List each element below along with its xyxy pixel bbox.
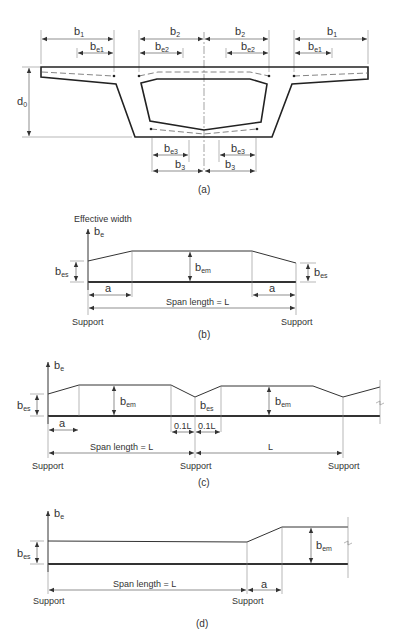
b2-left-label: b2	[170, 25, 180, 38]
be-axis-label: be	[54, 359, 64, 372]
support-1-label: Support	[32, 461, 64, 471]
effective-width-profile	[48, 527, 348, 542]
a-label: a	[59, 417, 66, 429]
b3-left-label: b3	[175, 158, 185, 171]
bes-left-label: bes	[17, 399, 31, 412]
support-left-label: Support	[72, 317, 104, 327]
b1-left-label: b1	[74, 25, 84, 38]
be3-right-label: be3	[231, 142, 245, 155]
bem-label: bem	[195, 261, 211, 274]
be2-left-label: be2	[155, 40, 169, 53]
continuous-span-diagram: be bes bem bes bem a 0.1L 0.1L	[17, 359, 384, 488]
break-mark	[376, 401, 384, 405]
b2-right-label: b2	[235, 25, 245, 38]
caption-c: (c)	[198, 477, 210, 488]
be1-right-label: be1	[308, 40, 322, 53]
be2-right-label: be2	[241, 40, 255, 53]
effective-width-profile	[88, 251, 296, 263]
support-2-label: Support	[180, 461, 212, 471]
be-axis-label: be	[54, 507, 64, 520]
break-mark	[344, 541, 352, 545]
box-girder-cross-section: b1 be1 b2 be2 b2 be2 b1 be1 d0	[17, 25, 368, 195]
bes-mid-label: bes	[200, 399, 214, 412]
effective-width-figure: b1 be1 b2 be2 b2 be2 b1 be1 d0	[0, 0, 401, 642]
bes-left-label: bes	[55, 265, 69, 278]
effective-width-title: Effective width	[74, 214, 132, 224]
support-3-label: Support	[328, 461, 360, 471]
be3-left-label: be3	[164, 142, 178, 155]
bes-right-label: bes	[314, 266, 328, 279]
span-2-label: L	[268, 442, 273, 452]
tenth-span-right-label: 0.1L	[198, 421, 216, 431]
bem-2-label: bem	[275, 395, 291, 408]
tenth-span-left-label: 0.1L	[174, 421, 192, 431]
caption-d: (d)	[196, 618, 208, 629]
a-right-label: a	[269, 282, 276, 294]
simple-span-diagram: Effective width be bes bem bes a a Span …	[55, 214, 328, 340]
span-length-label: Span length = L	[113, 579, 176, 589]
b1-right-label: b1	[327, 25, 337, 38]
caption-b: (b)	[198, 329, 210, 340]
girder-outline	[41, 67, 368, 137]
a-label: a	[261, 578, 268, 590]
support-right-label: Support	[281, 317, 313, 327]
d0-label: d0	[17, 95, 27, 108]
support-2-label: Support	[232, 596, 264, 606]
end-span-diagram: be bes bem Span length = L a Support Sup…	[17, 507, 352, 629]
bem-1-label: bem	[120, 395, 136, 408]
support-1-label: Support	[33, 596, 65, 606]
effective-width-profile	[48, 385, 380, 397]
a-left-label: a	[105, 282, 112, 294]
span-length-label: Span length = L	[166, 297, 229, 307]
be1-left-label: be1	[90, 40, 104, 53]
bes-label: bes	[17, 547, 31, 560]
bem-label: bem	[316, 539, 332, 552]
span-length-label: Span length = L	[90, 442, 153, 452]
caption-a: (a)	[198, 184, 210, 195]
b3-right-label: b3	[225, 158, 235, 171]
be-axis-label: be	[94, 225, 104, 238]
